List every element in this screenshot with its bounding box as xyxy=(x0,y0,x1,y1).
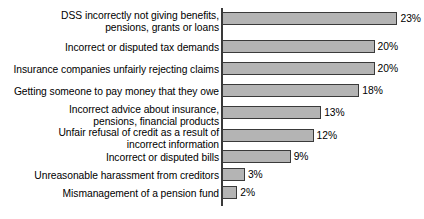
bar-value-label: 12% xyxy=(317,129,337,142)
bar xyxy=(222,12,397,25)
bar-value-label: 23% xyxy=(400,12,420,25)
category-label: Unreasonable harassment from creditors xyxy=(0,170,219,182)
category-label: Unfair refusal of credit as a result of … xyxy=(0,127,219,150)
bar xyxy=(222,129,314,142)
category-label: Getting someone to pay money that they o… xyxy=(0,86,219,98)
bar-value-label: 2% xyxy=(240,186,255,199)
category-label: Insurance companies unfairly rejecting c… xyxy=(0,64,219,76)
bar-value-label: 13% xyxy=(324,106,344,119)
bar xyxy=(222,106,321,119)
bar-value-label: 20% xyxy=(378,40,398,53)
category-label: Incorrect or disputed bills xyxy=(0,152,219,164)
bar xyxy=(222,168,245,181)
bar-value-label: 9% xyxy=(294,150,309,163)
bar-value-label: 20% xyxy=(378,62,398,75)
bar xyxy=(222,186,237,199)
bar-chart: DSS incorrectly not giving benefits, pen… xyxy=(0,0,424,219)
bar xyxy=(222,62,375,75)
category-label: Incorrect or disputed tax demands xyxy=(0,42,219,54)
bar-value-label: 3% xyxy=(248,168,263,181)
bar-value-label: 18% xyxy=(362,84,382,97)
category-label: DSS incorrectly not giving benefits, pen… xyxy=(0,10,219,33)
category-label: Mismanagement of a pension fund xyxy=(0,188,219,200)
bar xyxy=(222,150,291,163)
plot-area: DSS incorrectly not giving benefits, pen… xyxy=(0,0,424,219)
category-label: Incorrect advice about insurance, pensio… xyxy=(0,104,219,127)
bar xyxy=(222,84,359,97)
bar xyxy=(222,40,375,53)
